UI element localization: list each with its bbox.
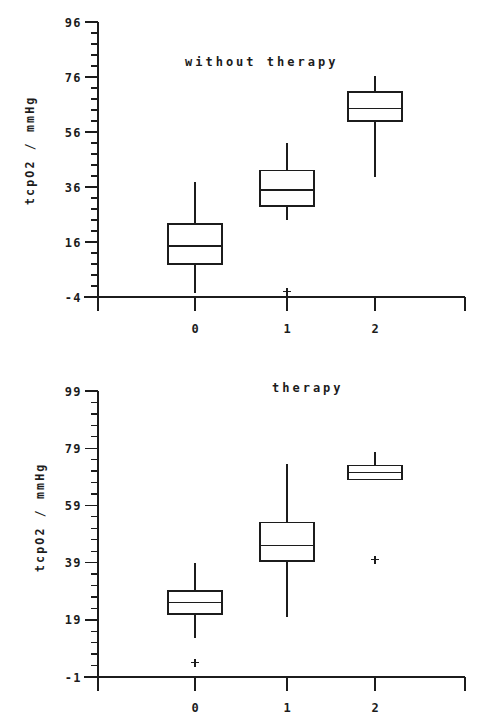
x-axis-tick-label: 1	[283, 701, 290, 715]
x-axis-tick-label: 0	[191, 701, 198, 715]
y-axis-tick-label: 56	[65, 126, 82, 140]
x-axis-tick-label: 2	[371, 322, 378, 336]
box-iqr	[168, 224, 222, 264]
box-iqr	[260, 523, 314, 562]
boxplot-panel-without-therapy: 9676563616-4012 tcpO2 / mmHg without the…	[0, 0, 487, 360]
y-axis-label-without-therapy: tcpO2 / mmHg	[23, 96, 37, 205]
y-axis-tick-label: -4	[65, 291, 82, 305]
box-plot-2	[348, 452, 402, 563]
panel-title-therapy: therapy	[272, 381, 344, 395]
y-axis-tick-label: 16	[65, 236, 82, 250]
boxplot-canvas-therapy: 9979593919-1012	[0, 360, 487, 715]
y-axis-label-therapy: tcpO2 / mmHg	[33, 463, 47, 572]
x-axis-tick-label: 2	[371, 701, 378, 715]
box-plot-1	[260, 143, 314, 296]
y-axis-tick-label: 99	[65, 385, 82, 399]
x-axis-tick-label: 0	[191, 322, 198, 336]
x-axis-tick-label: 1	[283, 322, 290, 336]
boxplot-panel-therapy: 9979593919-1012	[0, 360, 487, 715]
y-axis-tick-label: 59	[65, 499, 82, 513]
y-axis-tick-label: 79	[65, 442, 82, 456]
y-axis-tick-label: 19	[65, 613, 82, 627]
y-axis-tick-label: 39	[65, 556, 82, 570]
y-axis-tick-label: 36	[65, 181, 82, 195]
panel-title-without-therapy: without therapy	[185, 55, 338, 69]
y-axis-tick-label: 96	[65, 16, 82, 30]
box-plot-0	[168, 563, 222, 667]
y-axis-tick-label: 76	[65, 71, 82, 85]
y-axis-tick-label: -1	[65, 671, 82, 685]
box-plot-1	[260, 464, 314, 617]
box-iqr	[348, 92, 402, 121]
box-plot-0	[168, 182, 222, 293]
boxplot-canvas-without-therapy: 9676563616-4012	[0, 0, 487, 360]
box-plot-2	[348, 76, 402, 178]
box-iqr	[260, 171, 314, 207]
